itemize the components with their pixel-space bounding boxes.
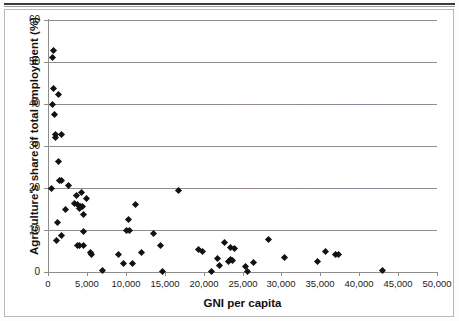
data-point — [49, 100, 56, 107]
data-point — [80, 242, 87, 249]
x-tick-40000 — [359, 272, 360, 276]
data-point — [265, 236, 272, 243]
data-point — [50, 47, 57, 54]
x-tick-15000 — [165, 272, 166, 276]
x-tick-25000 — [243, 272, 244, 276]
y-tick-20 — [44, 188, 48, 189]
y-tick-50 — [44, 62, 48, 63]
data-point — [58, 231, 65, 238]
x-tick-45000 — [398, 272, 399, 276]
x-tick-10000 — [126, 272, 127, 276]
data-point — [79, 228, 86, 235]
x-tick-0 — [48, 272, 49, 276]
y-tick-30 — [44, 146, 48, 147]
data-point — [80, 211, 87, 218]
data-point — [49, 54, 56, 61]
data-point — [120, 260, 127, 267]
x-tick-20000 — [204, 272, 205, 276]
x-tick-35000 — [320, 272, 321, 276]
x-tick-5000 — [87, 272, 88, 276]
data-point — [208, 268, 215, 275]
data-point — [216, 262, 223, 269]
x-tick-50000 — [437, 272, 438, 276]
data-point — [65, 182, 72, 189]
scatter-chart: 0102030405060 05,00010,00015,00020,00025… — [0, 0, 459, 321]
data-point — [125, 216, 132, 223]
y-tick-10 — [44, 230, 48, 231]
x-tick-30000 — [281, 272, 282, 276]
data-point — [50, 85, 57, 92]
data-point — [53, 237, 60, 244]
figure-page: 0102030405060 05,00010,00015,00020,00025… — [0, 0, 459, 321]
data-point — [83, 195, 90, 202]
y-tick-label-0: 0 — [16, 267, 40, 277]
y-axis-title: Agriculture's share of total employment … — [28, 16, 40, 256]
data-point — [48, 185, 55, 192]
data-point — [231, 245, 238, 252]
data-point — [175, 187, 182, 194]
x-axis-title: GNI per capita — [48, 297, 437, 309]
y-tick-40 — [44, 104, 48, 105]
data-point-layer — [48, 20, 437, 272]
plot-area — [48, 20, 437, 272]
data-point — [250, 259, 257, 266]
data-point — [138, 249, 145, 256]
data-point — [132, 201, 139, 208]
data-point — [281, 254, 288, 261]
data-point — [221, 239, 228, 246]
data-point — [149, 230, 156, 237]
data-point — [214, 255, 221, 262]
x-tick-label-50000: 50,000 — [412, 279, 459, 289]
data-point — [314, 258, 321, 265]
data-point — [62, 206, 69, 213]
data-point — [128, 260, 135, 267]
data-point — [55, 91, 62, 98]
data-point — [55, 158, 62, 165]
y-tick-60 — [44, 20, 48, 21]
data-point — [322, 248, 329, 255]
data-point — [54, 218, 61, 225]
data-point — [114, 251, 121, 258]
data-point — [157, 242, 164, 249]
data-point — [51, 111, 58, 118]
